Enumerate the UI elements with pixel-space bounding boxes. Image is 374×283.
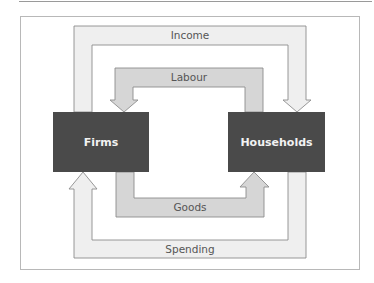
circular-flow-diagram: Firms Households Income Labour Goods Spe… [0,0,374,283]
firms-label: Firms [84,136,119,149]
income-label: Income [171,29,210,41]
labour-label: Labour [171,71,208,83]
households-label: Households [240,136,313,149]
spending-label: Spending [165,243,214,255]
goods-label: Goods [173,201,206,213]
